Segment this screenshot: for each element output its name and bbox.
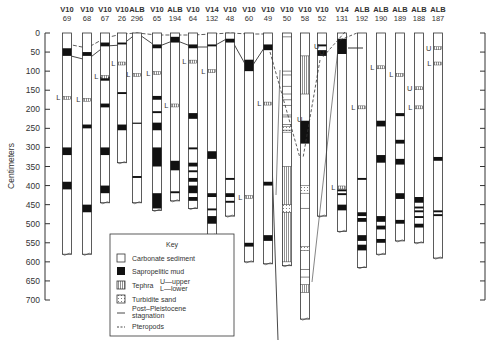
- carbonate-sediment: [434, 33, 443, 258]
- tephra-layer: [134, 73, 141, 76]
- y-tick-label: 650: [26, 276, 40, 286]
- tephra-layer: [119, 62, 126, 65]
- sapropel-band: [189, 186, 198, 194]
- upper-tephra-marker: U: [407, 84, 412, 93]
- sapropel-band: [338, 39, 347, 54]
- sapropel-band: [153, 44, 162, 48]
- lower-tephra-marker: L: [389, 70, 393, 79]
- y-tick-label: 500: [26, 219, 40, 229]
- sapropel-band: [358, 178, 367, 180]
- sapropel-band: [208, 208, 217, 210]
- lower-tephra-marker: L: [126, 70, 130, 79]
- core-number-label: 58: [301, 14, 309, 23]
- sapropel-band: [208, 151, 217, 159]
- sapropel-band: [189, 170, 198, 172]
- y-tick-label: 150: [26, 85, 40, 95]
- legend-key: Key Carbonate sediment Sapropelitic mud …: [110, 234, 234, 336]
- tephra-layer: [265, 102, 272, 105]
- core-number-label: 52: [318, 14, 326, 23]
- tephra-layer: [190, 60, 197, 63]
- lower-tephra-marker: L: [94, 72, 98, 81]
- lower-tephra-marker: L: [164, 101, 168, 110]
- core-number-label: 69: [63, 14, 71, 23]
- sapropel-band: [264, 235, 273, 241]
- core-ship-label: ALB: [430, 5, 446, 14]
- core-correlation-diagram: 0501001502002503003504004505005506006507…: [0, 0, 504, 354]
- tephra-layer: [435, 47, 442, 50]
- sapropel-band: [245, 60, 254, 71]
- sapropel-band: [226, 201, 235, 203]
- tephra-layer: [209, 70, 216, 73]
- sapropel-band: [358, 218, 367, 222]
- core-ship-label: V10: [115, 5, 128, 14]
- core-column: V1068L: [76, 5, 93, 255]
- tephra-layer: [359, 106, 366, 109]
- core-ship-label: ALB: [167, 5, 183, 14]
- lower-tephra-marker: L: [111, 59, 115, 68]
- sapropel-band: [338, 193, 347, 195]
- turbidite-band: [301, 247, 310, 251]
- core-column: V1052: [315, 5, 328, 217]
- sapropel-band: [189, 163, 198, 167]
- core-number-label: 189: [394, 14, 407, 23]
- sapropel-band: [396, 159, 405, 165]
- tephra-layer: [172, 104, 179, 107]
- sapropel-band: [208, 193, 217, 197]
- tephra-layer: [416, 106, 423, 109]
- core-column: ALB187UL: [426, 5, 446, 259]
- core-ship-label: V10: [242, 5, 255, 14]
- core-ship-label: V14: [335, 5, 349, 14]
- legend-tephra-lower: L—lower: [160, 285, 188, 292]
- sapropel-band: [434, 214, 443, 216]
- sapropel-band: [189, 197, 198, 201]
- sapropel-band: [434, 210, 443, 212]
- sapropel-band: [153, 96, 162, 100]
- core-column: ALB190L: [370, 5, 389, 255]
- sapropel-band: [153, 147, 162, 166]
- core-ship-label: V10: [60, 5, 73, 14]
- sapropel-band: [358, 212, 367, 216]
- carbonate-sediment: [83, 33, 92, 254]
- legend-label-stagnation: Post–Pleistocene: [132, 305, 186, 312]
- carbonate-sediment: [208, 33, 217, 235]
- sapropel-band: [434, 157, 443, 161]
- tephra-band: [301, 56, 310, 94]
- turbidite-swatch: [117, 295, 125, 303]
- turbidite-band: [283, 126, 292, 132]
- y-tick-label: 100: [26, 66, 40, 76]
- core-ship-label: ALB: [354, 5, 370, 14]
- core-ship-label: ALB: [392, 5, 408, 14]
- core-column: V1058: [298, 5, 311, 320]
- carbonate-sediment: [396, 33, 405, 241]
- carbonate-sediment: [171, 33, 180, 201]
- carbonate-sediment: [153, 33, 162, 210]
- y-tick-label: 50: [31, 47, 41, 57]
- sapropel-band: [101, 186, 110, 194]
- tephra-band: [283, 167, 292, 262]
- legend-label-sapropel: Sapropelitic mud: [132, 268, 184, 276]
- sapropel-swatch: [117, 267, 125, 275]
- tephra-layer: [397, 73, 404, 76]
- core-column: V1026L: [111, 5, 128, 164]
- sapropel-band: [377, 239, 386, 243]
- sapropel-band: [377, 226, 386, 230]
- core-ship-label: V14: [205, 5, 219, 14]
- sapropel-band: [83, 125, 92, 129]
- carbonate-sediment: [118, 33, 127, 163]
- carbonate-sediment: [101, 33, 110, 203]
- sapropel-band: [338, 189, 347, 191]
- sapropel-band: [118, 125, 127, 131]
- lower-tephra-marker: L: [427, 59, 431, 68]
- sapropel-band: [171, 191, 180, 193]
- core-column: V14132L: [201, 5, 219, 236]
- carbonate-sediment: [318, 33, 327, 216]
- y-tick-label: 350: [26, 162, 40, 172]
- sapropel-band: [208, 216, 217, 224]
- sapropel-band: [63, 182, 72, 190]
- core-column: ALB189L: [389, 5, 408, 242]
- turbidite-band: [283, 205, 292, 213]
- y-tick-label: 550: [26, 238, 40, 248]
- core-column: V14131L: [331, 5, 349, 232]
- core-number-label: 192: [356, 14, 369, 23]
- legend-label-tephra: Tephra: [132, 282, 154, 290]
